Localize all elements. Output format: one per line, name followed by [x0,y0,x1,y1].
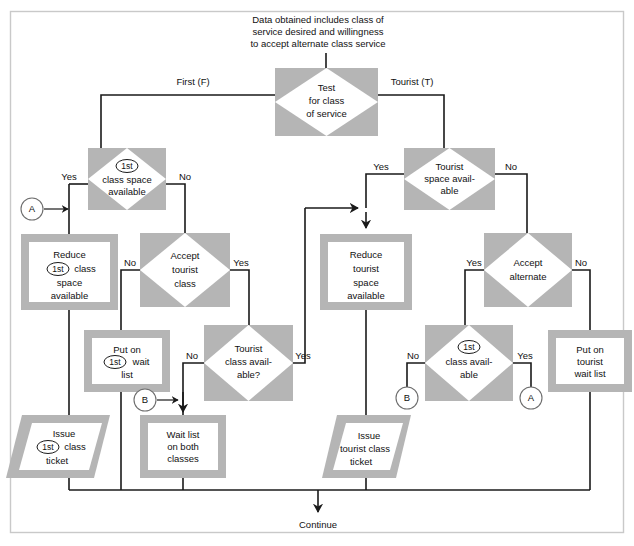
connector-a-right: A [520,387,542,409]
node-first-class-avail-line-3: able [460,369,478,380]
node-accept-alternate-line-2: alternate [510,271,547,282]
node-issue-tourist-class-ticket: Issue tourist class ticket [322,415,411,478]
node-first-space-line-3: available [108,186,146,197]
node-tourist-space-line-1: Tourist [436,161,464,172]
node-first-class-avail-badge: 1st [463,342,475,352]
label-yes-first-class-avail: Yes [517,350,533,361]
edge-tourist-class-avail-yes [293,208,305,363]
connector-b-right-label: B [404,392,410,403]
label-no-first-space: No [179,171,191,182]
node-reduce-tourist-line-4: available [347,290,385,301]
node-accept-tourist-line-1: Accept [170,250,199,261]
node-accept-alternate: Accept alternate [484,233,572,307]
edge-first-class-avail-no [407,363,425,387]
node-put-first-wait-line-1: Put on [113,344,140,355]
label-no-tourist-space: No [505,161,517,172]
node-put-first-wait-badge: 1st [109,357,121,367]
node-reduce-first-badge: 1st [52,264,64,274]
node-put-on-tourist-wait-list: Put on tourist wait list [548,330,632,392]
edge-first-space-no [166,184,185,233]
node-issue-tourist-line-3: ticket [350,456,373,467]
label-first-f: First (F) [176,76,209,87]
label-no-accept-tourist: No [124,257,136,268]
node-put-first-wait-word: wait [132,356,150,367]
node-reduce-first-line-3: space [57,277,82,288]
node-reduce-first-line-1: Reduce [53,249,86,260]
connector-a-left: A [21,198,43,220]
node-reduce-first-line-4: available [51,290,89,301]
node-issue-first-line-1: Issue [53,428,76,439]
label-tourist-t: Tourist (T) [391,76,434,87]
airline-reservation-flowchart: Data obtained includes class of service … [0,0,634,546]
node-test-line-1: Test [318,82,336,93]
node-reduce-first-class-word: class [74,263,96,274]
node-test-line-3: of service [306,108,347,119]
caption-line-1: Data obtained includes class of [252,14,384,25]
edge-tourist-space-no [495,174,527,233]
label-yes-tourist-space: Yes [373,161,389,172]
node-put-on-first-wait-list: Put on 1st wait list [84,330,170,392]
node-reduce-tourist-line-2: tourist [353,263,379,274]
edge-accept-tourist-no [121,270,140,330]
node-first-space-line-2: class space [102,174,152,185]
node-accept-alternate-line-1: Accept [513,257,542,268]
node-put-tourist-wait-line-3: wait list [573,368,606,379]
edge-tourist-space-yes [366,174,404,208]
label-yes-accept-alternate: Yes [466,257,482,268]
edge-first-class-avail-yes [513,363,531,387]
node-first-class-available: 1st class avail- able [425,325,513,401]
node-put-tourist-wait-line-2: tourist [577,356,603,367]
node-waitlist-line-3: classes [167,453,199,464]
node-issue-tourist-line-2: tourist class [340,443,390,454]
node-issue-first-class-word: class [64,441,86,452]
node-test-class-of-service: Test for class of service [275,68,378,136]
node-accept-tourist-line-3: class [174,278,196,289]
node-waitlist-line-1: Wait list [167,429,200,440]
connector-a-left-label: A [29,203,36,214]
edge-test-tourist [378,95,444,150]
label-no-accept-alternate: No [575,257,587,268]
node-tourist-class-avail-line-2: class avail- [225,356,272,367]
caption-line-2: service desired and willingness [253,26,384,37]
continue-label: Continue [299,519,337,530]
edge-accept-alt-yes [465,270,484,325]
caption-block: Data obtained includes class of service … [250,14,385,49]
node-reduce-tourist-space: Reduce tourist space available [320,234,412,310]
connector-a-right-label: A [528,392,535,403]
label-yes-tourist-class-avail: Yes [295,350,311,361]
node-tourist-class-avail-line-1: Tourist [235,343,263,354]
node-first-class-avail-line-2: class avail- [446,356,493,367]
node-put-first-wait-line-3: list [121,369,133,380]
node-first-space-badge: 1st [121,161,133,171]
node-issue-tourist-line-1: Issue [358,430,381,441]
edge-accept-tourist-yes [230,270,249,325]
flowchart-page: Data obtained includes class of service … [0,0,634,546]
node-put-tourist-wait-line-1: Put on [576,344,603,355]
node-waitlist-line-2: on both [167,441,199,452]
connector-b-right: B [396,387,418,409]
node-test-line-2: for class [309,95,345,106]
label-yes-accept-tourist: Yes [233,257,249,268]
node-reduce-tourist-line-3: space [353,277,378,288]
node-tourist-space-line-3: able [441,185,459,196]
connector-b-mid: B [134,389,156,411]
node-wait-list-both-classes: Wait list on both classes [140,415,226,478]
node-first-class-space-available: 1st class space available [88,148,166,210]
node-accept-tourist-line-2: tourist [172,264,198,275]
node-issue-first-line-3: ticket [46,455,69,466]
node-tourist-space-available: Tourist space avail- able [404,148,495,210]
label-no-first-class-avail: No [407,350,419,361]
node-tourist-space-line-2: space avail- [424,173,475,184]
node-tourist-class-avail-line-3: able? [237,369,260,380]
label-no-tourist-class-avail: No [186,350,198,361]
connector-b-mid-label: B [142,394,148,405]
node-tourist-class-available: Tourist class avail- able? [204,325,293,401]
caption-line-3: to accept alternate class service [250,38,385,49]
node-issue-first-class-ticket: Issue 1st class ticket [6,415,110,478]
label-yes-first-space: Yes [61,171,77,182]
node-issue-first-badge: 1st [42,442,54,452]
node-reduce-first-class-space: Reduce 1st class space available [21,234,118,310]
node-reduce-tourist-line-1: Reduce [350,249,383,260]
edge-accept-alt-no [572,270,590,330]
node-accept-tourist-class: Accept tourist class [140,233,230,307]
